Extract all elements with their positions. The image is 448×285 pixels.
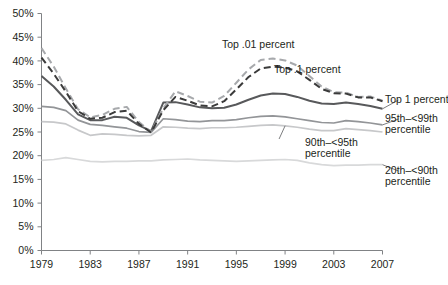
y-axis-tick-label: 15%: [12, 173, 33, 185]
series-annotations: Top .01 percentTop .1 percentTop 1 perce…: [222, 38, 448, 187]
y-axis-tick-label: 45%: [12, 31, 33, 43]
y-axis-tick-label: 10%: [12, 197, 33, 209]
x-axis-tick-label: 1991: [176, 258, 200, 270]
x-axis-tick-label: 1987: [127, 258, 151, 270]
y-axis-tick-label: 35%: [12, 78, 33, 90]
series-label: percentile: [385, 123, 431, 135]
y-axis-tick-label: 25%: [12, 126, 33, 138]
x-axis-tick-label: 1999: [273, 258, 297, 270]
x-axis-tick-label: 1983: [79, 258, 103, 270]
series-label: percentile: [305, 147, 351, 159]
y-axis-tick-label: 20%: [12, 149, 33, 161]
x-axis-tick-label: 2007: [371, 258, 395, 270]
income-share-chart: 0%5%10%15%20%25%30%35%40%45%50% 19791983…: [0, 0, 448, 285]
series-label: percentile: [385, 175, 431, 187]
series-label: Top .1 percent: [274, 63, 341, 75]
y-axis-ticks: 0%5%10%15%20%25%30%35%40%45%50%: [12, 7, 41, 256]
series-label: Top 1 percent: [385, 93, 448, 105]
y-axis-tick-label: 40%: [12, 55, 33, 67]
y-axis-tick-label: 30%: [12, 102, 33, 114]
y-axis-tick-label: 5%: [18, 220, 33, 232]
x-axis-tick-label: 1979: [30, 258, 54, 270]
x-axis-tick-label: 2003: [322, 258, 346, 270]
y-axis-tick-label: 50%: [12, 7, 33, 19]
series-label: Top .01 percent: [222, 38, 294, 50]
leader-line: [279, 126, 285, 139]
chart-axes: [42, 14, 383, 251]
x-axis-tick-label: 1995: [225, 258, 249, 270]
x-axis-ticks: 19791983198719911995199920032007: [30, 251, 395, 270]
chart-plot-area: 0%5%10%15%20%25%30%35%40%45%50% 19791983…: [0, 0, 448, 285]
y-axis-tick-label: 0%: [18, 244, 33, 256]
